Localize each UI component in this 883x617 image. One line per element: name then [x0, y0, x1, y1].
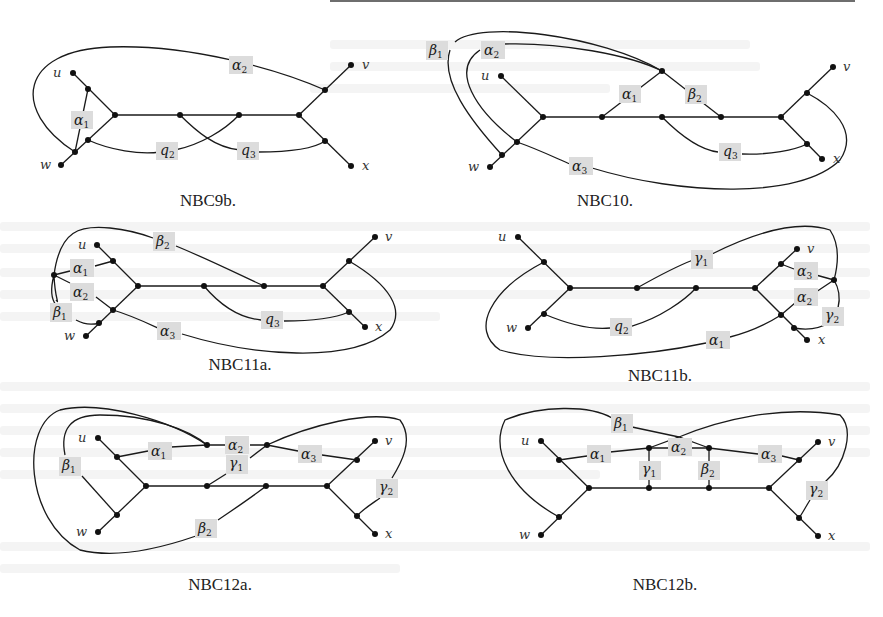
edge-label-q2: q2: [610, 318, 632, 336]
edge-label-alpha2: α2: [481, 41, 505, 60]
edge-label-alpha3: α3: [794, 262, 818, 281]
edge-label-alpha2: α2: [229, 56, 253, 75]
graph-edges: [500, 408, 847, 536]
vertex-label-x: x: [385, 526, 393, 541]
vertex-label-w: w: [40, 157, 51, 172]
vertex-label-w: w: [506, 320, 517, 335]
vertex-label-x: x: [828, 528, 836, 543]
edge-label-alpha2: α2: [225, 436, 249, 455]
edge-label-alpha2: α2: [668, 438, 692, 457]
figure-caption: NBC12b.: [633, 575, 698, 594]
figure-nbc11a: u v w x β2 α1 α2 β1 α3: [50, 227, 396, 374]
edge-label-beta1: β1: [50, 303, 72, 322]
vertex-label-w: w: [64, 328, 75, 343]
vertex-label-x: x: [375, 319, 383, 334]
figure-nbc9b: u v w x α1 α2 q2 q3 NBC9b.: [33, 47, 370, 210]
edge-label-beta1: β1: [611, 414, 633, 433]
figure-nbc12b: u v w x β1 α1 α2 γ1 β2: [500, 408, 847, 594]
edge-label-beta2: β2: [195, 519, 217, 538]
graph-edges: [33, 47, 351, 166]
edge-label-beta1: β1: [59, 457, 81, 476]
edge-label-alpha1: α1: [71, 111, 93, 130]
edge-label-alpha3: α3: [758, 445, 782, 464]
figure-caption: NBC9b.: [180, 191, 236, 210]
figure-nbc11b: u v w x γ1 α3 α2 γ2 q2: [486, 226, 844, 385]
edge-label-q3: q3: [237, 142, 259, 160]
edge-label-beta1: β1: [426, 41, 448, 60]
edge-label-q2: q2: [156, 142, 178, 160]
vertex-label-v: v: [385, 433, 393, 448]
edge-label-gamma2: γ2: [822, 307, 844, 326]
vertex-label-w: w: [468, 159, 479, 174]
vertex-label-x: x: [833, 151, 841, 166]
edge-label-gamma1: γ1: [691, 250, 713, 269]
graph-nodes: [487, 64, 836, 170]
edge-label-alpha3: α3: [569, 157, 593, 176]
vertex-label-u: u: [481, 68, 489, 83]
paper-page: u v w x α1 α2 q2 q3 NBC9b.: [0, 0, 883, 617]
figure-caption: NBC10.: [577, 191, 633, 210]
edge-label-alpha1: α1: [70, 259, 94, 278]
vertex-label-u: u: [498, 229, 506, 244]
edge-label-gamma1: γ1: [639, 461, 661, 480]
vertex-label-u: u: [53, 65, 61, 80]
vertex-label-v: v: [807, 241, 815, 256]
edge-label-gamma1: γ1: [226, 455, 248, 474]
graph-edges: [486, 226, 839, 357]
graph-edges: [34, 407, 407, 553]
vertex-label-w: w: [519, 527, 530, 542]
edge-label-alpha1: α1: [619, 85, 641, 104]
vertex-label-v: v: [843, 59, 851, 74]
edge-label-alpha1: α1: [706, 331, 730, 350]
edge-label-beta2: β2: [685, 85, 707, 104]
edge-label-beta2: β2: [698, 461, 720, 480]
edge-label-alpha1: α1: [148, 442, 172, 461]
edge-label-alpha1: α1: [587, 445, 611, 464]
figure-caption: NBC11a.: [208, 355, 271, 374]
vertex-label-w: w: [76, 524, 87, 539]
edge-label-alpha3: α3: [157, 322, 181, 341]
figure-caption: NBC11b.: [628, 366, 692, 385]
graph-edges: [448, 32, 847, 189]
edge-label-alpha2: α2: [794, 288, 818, 307]
vertex-label-x: x: [818, 332, 826, 347]
vertex-label-u: u: [521, 433, 529, 448]
vertex-label-u: u: [78, 430, 86, 445]
edge-label-alpha3: α3: [298, 445, 322, 464]
figure-caption: NBC12a.: [188, 575, 252, 594]
vertex-label-v: v: [362, 57, 370, 72]
edge-label-alpha2: α2: [70, 283, 94, 302]
graph-edges: [52, 227, 396, 353]
vertex-label-v: v: [828, 434, 836, 449]
figure-nbc10: u v w x β1 α2 α1 β2 q3: [426, 32, 851, 210]
figure-nbc12a: u v w x β1 α1 α2 γ1 α3: [34, 407, 407, 594]
edge-label-beta2: β2: [153, 232, 175, 251]
vertex-label-x: x: [362, 158, 370, 173]
vertex-label-u: u: [78, 237, 86, 252]
edge-label-gamma2: γ2: [376, 479, 398, 498]
vertex-label-v: v: [385, 229, 393, 244]
edge-label-q3: q3: [261, 311, 283, 329]
edge-label-q3: q3: [719, 143, 741, 161]
edge-label-gamma2: γ2: [806, 481, 828, 500]
